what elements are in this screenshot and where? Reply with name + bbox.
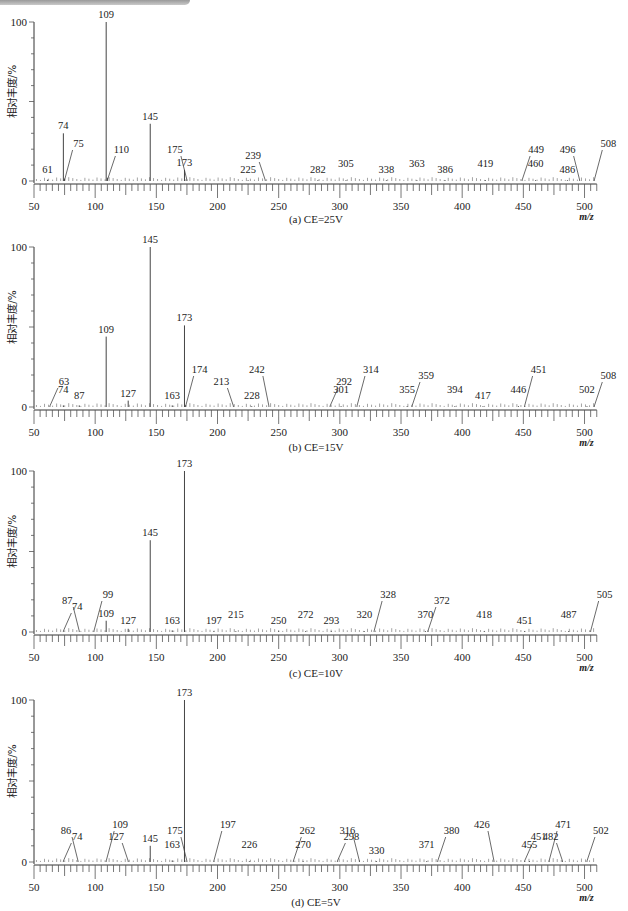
- y-axis-label: 相对丰度/%: [6, 65, 18, 119]
- x-tick-label: 450: [515, 881, 532, 893]
- spectrum-panel-b: 0100相对丰度/%50100150200250300350400450500m…: [6, 234, 616, 454]
- y-tick-label: 0: [22, 175, 28, 187]
- x-tick-label: 250: [270, 200, 287, 212]
- x-tick-label: 100: [87, 651, 104, 663]
- peak-leader: [63, 843, 71, 861]
- peak-label: 175: [167, 144, 183, 155]
- x-tick-label: 250: [270, 651, 287, 663]
- x-tick-label: 150: [148, 651, 165, 663]
- peak-label: 174: [192, 364, 209, 375]
- peak-label: 145: [142, 234, 158, 245]
- x-tick-label: 350: [393, 426, 410, 438]
- peak-label: 110: [114, 144, 129, 155]
- peak-leader: [557, 843, 563, 861]
- peak-label: 145: [142, 833, 158, 844]
- peak-leader: [594, 150, 602, 180]
- peak-label: 419: [478, 158, 494, 169]
- peak-label: 272: [298, 609, 314, 620]
- peak-label: 163: [164, 390, 180, 401]
- peak-leader: [594, 382, 602, 406]
- peak-label: 197: [206, 615, 222, 626]
- peak-label: 270: [295, 839, 311, 850]
- x-tick-label: 450: [515, 200, 532, 212]
- peak-label: 471: [555, 819, 571, 830]
- peak-label: 496: [560, 144, 576, 155]
- spectrum-panel-a: 0100相对丰度/%50100150200250300350400450500m…: [6, 9, 616, 226]
- peak-leader: [488, 831, 494, 861]
- x-tick-label: 100: [87, 200, 104, 212]
- y-tick-label: 100: [11, 241, 28, 253]
- peak-label: 386: [437, 164, 453, 175]
- x-axis-label: m/z: [579, 662, 594, 673]
- peak-label: 486: [560, 164, 576, 175]
- x-tick-label: 250: [270, 881, 287, 893]
- x-tick-label: 200: [209, 881, 226, 893]
- peak-label: 394: [447, 384, 464, 395]
- peak-label: 338: [378, 164, 394, 175]
- x-tick-label: 100: [87, 426, 104, 438]
- peak-label: 175: [167, 825, 183, 836]
- peak-label: 330: [369, 845, 385, 856]
- peak-label: 250: [271, 615, 287, 626]
- x-tick-label: 50: [29, 200, 41, 212]
- peak-label: 451: [531, 364, 547, 375]
- peak-label: 87: [62, 595, 73, 606]
- x-tick-label: 400: [454, 426, 471, 438]
- peak-label: 145: [142, 527, 158, 538]
- peak-leader: [181, 837, 187, 861]
- y-tick-label: 100: [11, 694, 28, 706]
- peak-label: 293: [323, 615, 339, 626]
- x-tick-label: 50: [29, 426, 41, 438]
- peak-leader: [374, 601, 382, 631]
- peak-label: 301: [333, 384, 349, 395]
- peak-label: 197: [220, 819, 236, 830]
- x-tick-label: 450: [515, 426, 532, 438]
- peak-label: 163: [164, 839, 180, 850]
- x-axis-label: m/z: [579, 437, 594, 448]
- y-axis-label: 相对丰度/%: [6, 290, 18, 344]
- x-tick-label: 50: [29, 881, 41, 893]
- peak-label: 109: [98, 324, 114, 335]
- x-tick-label: 50: [29, 651, 41, 663]
- peak-label: 371: [419, 839, 435, 850]
- peak-leader: [65, 150, 73, 180]
- peak-label: 262: [299, 825, 315, 836]
- peak-label: 87: [74, 390, 85, 401]
- peak-label: 226: [241, 839, 257, 850]
- peak-label: 508: [600, 370, 616, 381]
- peak-leader: [591, 601, 599, 631]
- peak-label: 163: [164, 615, 180, 626]
- peak-label: 449: [528, 144, 544, 155]
- peak-label: 228: [244, 390, 260, 401]
- peak-label: 505: [597, 589, 613, 600]
- peak-label: 282: [310, 164, 326, 175]
- peak-leader: [259, 162, 265, 180]
- peak-label: 173: [177, 687, 193, 698]
- peak-label: 99: [103, 589, 114, 600]
- peak-leader: [357, 376, 365, 406]
- spectrum-panel-d: 0100相对丰度/%50100150200250300350400450500m…: [6, 687, 609, 909]
- peak-leader: [63, 613, 71, 631]
- peak-label: 109: [98, 9, 114, 20]
- x-tick-label: 200: [209, 426, 226, 438]
- peak-leader: [587, 837, 595, 861]
- peak-label: 482: [543, 831, 559, 842]
- peak-label: 417: [475, 390, 491, 401]
- peak-label: 127: [120, 615, 136, 626]
- peak-label: 109: [98, 608, 114, 619]
- peak-leader: [107, 156, 115, 180]
- x-tick-label: 300: [332, 651, 349, 663]
- x-axis-label: m/z: [579, 211, 594, 222]
- peak-leader: [214, 831, 222, 861]
- peak-label: 451: [517, 615, 533, 626]
- peak-label: 305: [338, 158, 354, 169]
- x-tick-label: 350: [393, 651, 410, 663]
- peak-label: 173: [177, 157, 193, 168]
- x-tick-label: 200: [209, 651, 226, 663]
- peak-leader: [438, 837, 446, 861]
- x-tick-label: 150: [148, 200, 165, 212]
- x-tick-label: 400: [454, 881, 471, 893]
- peak-label: 242: [249, 364, 265, 375]
- y-tick-label: 100: [11, 16, 28, 28]
- panel-caption: (d) CE=5V: [291, 896, 340, 909]
